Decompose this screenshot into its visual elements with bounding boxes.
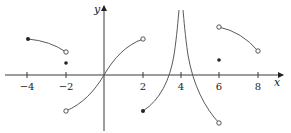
curve-piece-3 [143,10,179,111]
tick-label: 4 [178,81,184,92]
closed-point [26,37,30,41]
isolated-point-at-6 [217,58,221,62]
function-graph: y x −4 −2 2 4 6 8 [0,0,291,133]
tick-label: 2 [140,81,146,92]
curve-piece-1 [28,39,66,52]
tick-label: 6 [216,81,222,92]
open-point [141,37,145,41]
closed-point [141,109,145,113]
y-axis-label: y [93,3,101,16]
open-point [256,49,260,53]
open-point [217,121,221,125]
open-point [217,25,221,29]
x-tick-labels: −4 −2 2 4 6 8 [20,81,262,92]
x-axis-label: x [274,76,281,89]
tick-label: −2 [59,81,74,92]
curve-piece-5 [219,27,258,51]
open-point [64,109,68,113]
tick-label: −4 [20,81,35,92]
isolated-point-at-minus-2 [64,61,68,65]
open-point [64,50,68,54]
curve-piece-4 [183,10,219,123]
tick-label: 8 [255,81,261,92]
